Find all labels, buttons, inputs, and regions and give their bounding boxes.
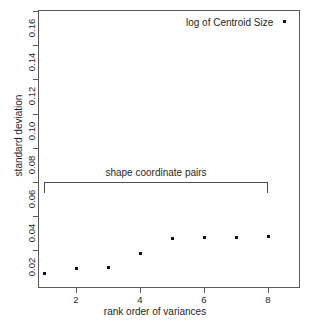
data-point <box>107 266 110 269</box>
data-point <box>43 272 46 275</box>
x-tick-label: 2 <box>66 295 86 305</box>
y-tick-label: 0.10 <box>27 114 37 148</box>
y-tick-label: 0.08 <box>27 148 37 182</box>
data-point <box>267 235 270 238</box>
x-tick-mark <box>76 288 77 293</box>
y-tick-label: 0.12 <box>27 79 37 113</box>
bracket-annotation-label: shape coordinate pairs <box>44 167 268 178</box>
x-axis-title: rank order of variances <box>0 306 310 317</box>
x-tick-label: 8 <box>258 295 278 305</box>
data-point <box>139 252 142 255</box>
y-tick-label: 0.14 <box>27 45 37 79</box>
data-point <box>235 236 238 239</box>
scatter-plot-figure: standard deviation rank order of varianc… <box>0 0 310 323</box>
legend: log of Centroid Size <box>186 16 286 28</box>
x-tick-mark <box>204 288 205 293</box>
x-tick-label: 4 <box>130 295 150 305</box>
y-tick-label: 0.02 <box>27 250 37 284</box>
legend-label: log of Centroid Size <box>186 17 273 28</box>
y-tick-label: 0.04 <box>27 216 37 250</box>
y-tick-label: 0.06 <box>27 182 37 216</box>
plot-frame <box>38 10 300 288</box>
cropped-title-remnant <box>0 0 310 4</box>
y-axis-title: standard deviation <box>13 66 24 206</box>
legend-marker-icon <box>283 20 286 23</box>
x-tick-mark <box>140 288 141 293</box>
bracket-annotation <box>44 182 268 193</box>
y-tick-label: 0.16 <box>27 11 37 45</box>
data-point <box>75 267 78 270</box>
x-tick-mark <box>268 288 269 293</box>
x-tick-label: 6 <box>194 295 214 305</box>
data-point <box>171 237 174 240</box>
data-point <box>203 236 206 239</box>
